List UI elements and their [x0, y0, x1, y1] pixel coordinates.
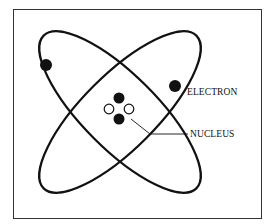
nucleus-neutron-right: [124, 104, 134, 114]
electron-right: [169, 80, 181, 92]
orbit-ellipse-2: [17, 9, 222, 214]
nucleus-label: NUCLEUS: [190, 129, 235, 139]
nucleus-neutron-left: [104, 104, 114, 114]
orbit-ellipse-1: [17, 9, 222, 214]
atom-diagram: [0, 0, 276, 224]
nucleus-proton-bottom: [114, 114, 125, 125]
nucleus-proton-top: [114, 93, 125, 104]
electron-label: ELECTRON: [187, 87, 237, 97]
electron-left: [40, 59, 52, 71]
